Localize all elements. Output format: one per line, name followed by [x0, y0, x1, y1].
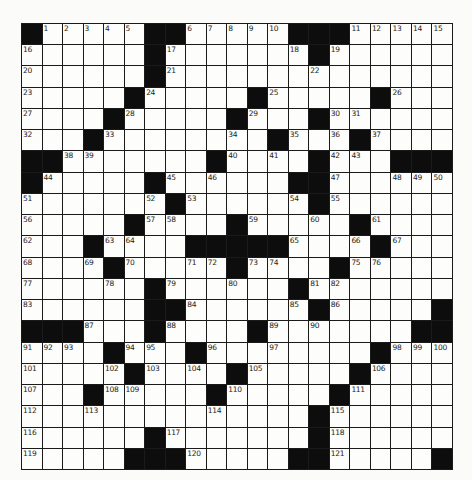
- answer-cell[interactable]: [412, 385, 432, 405]
- answer-cell[interactable]: [309, 88, 329, 108]
- answer-cell[interactable]: [227, 88, 247, 108]
- answer-cell[interactable]: 17: [166, 45, 186, 65]
- answer-cell[interactable]: 63: [104, 236, 124, 256]
- answer-cell[interactable]: 65: [289, 236, 309, 256]
- answer-cell[interactable]: [104, 88, 124, 108]
- answer-cell[interactable]: [43, 258, 63, 278]
- answer-cell[interactable]: 116: [22, 428, 42, 448]
- answer-cell[interactable]: [104, 215, 124, 235]
- answer-cell[interactable]: 93: [63, 343, 83, 363]
- answer-cell[interactable]: [186, 215, 206, 235]
- answer-cell[interactable]: [207, 364, 227, 384]
- answer-cell[interactable]: [330, 343, 350, 363]
- answer-cell[interactable]: 22: [309, 66, 329, 86]
- answer-cell[interactable]: [84, 364, 104, 384]
- answer-cell[interactable]: [63, 130, 83, 150]
- answer-cell[interactable]: [166, 364, 186, 384]
- answer-cell[interactable]: [104, 66, 124, 86]
- answer-cell[interactable]: 67: [391, 236, 411, 256]
- answer-cell[interactable]: [309, 130, 329, 150]
- answer-cell[interactable]: [412, 194, 432, 214]
- answer-cell[interactable]: 6: [186, 24, 206, 44]
- answer-cell[interactable]: [43, 364, 63, 384]
- answer-cell[interactable]: [412, 130, 432, 150]
- answer-cell[interactable]: 23: [22, 88, 42, 108]
- answer-cell[interactable]: [145, 406, 165, 426]
- answer-cell[interactable]: 36: [330, 130, 350, 150]
- answer-cell[interactable]: [432, 428, 452, 448]
- answer-cell[interactable]: [207, 109, 227, 129]
- answer-cell[interactable]: 4: [104, 24, 124, 44]
- answer-cell[interactable]: [145, 258, 165, 278]
- answer-cell[interactable]: [432, 406, 452, 426]
- answer-cell[interactable]: [330, 364, 350, 384]
- answer-cell[interactable]: 104: [186, 364, 206, 384]
- answer-cell[interactable]: [289, 88, 309, 108]
- answer-cell[interactable]: 94: [125, 343, 145, 363]
- answer-cell[interactable]: [391, 215, 411, 235]
- answer-cell[interactable]: [63, 215, 83, 235]
- answer-cell[interactable]: 55: [330, 194, 350, 214]
- answer-cell[interactable]: 32: [22, 130, 42, 150]
- answer-cell[interactable]: [248, 449, 268, 469]
- answer-cell[interactable]: [43, 236, 63, 256]
- answer-cell[interactable]: [350, 66, 370, 86]
- answer-cell[interactable]: 80: [227, 279, 247, 299]
- answer-cell[interactable]: 115: [330, 406, 350, 426]
- answer-cell[interactable]: 42: [330, 151, 350, 171]
- answer-cell[interactable]: [350, 428, 370, 448]
- answer-cell[interactable]: [43, 45, 63, 65]
- answer-cell[interactable]: [84, 449, 104, 469]
- answer-cell[interactable]: [268, 45, 288, 65]
- answer-cell[interactable]: 16: [22, 45, 42, 65]
- answer-cell[interactable]: [289, 151, 309, 171]
- answer-cell[interactable]: [84, 173, 104, 193]
- answer-cell[interactable]: 111: [350, 385, 370, 405]
- answer-cell[interactable]: [227, 428, 247, 448]
- answer-cell[interactable]: [432, 66, 452, 86]
- answer-cell[interactable]: [371, 428, 391, 448]
- answer-cell[interactable]: 118: [330, 428, 350, 448]
- answer-cell[interactable]: 100: [432, 343, 452, 363]
- answer-cell[interactable]: 18: [289, 45, 309, 65]
- answer-cell[interactable]: [432, 364, 452, 384]
- answer-cell[interactable]: [207, 428, 227, 448]
- answer-cell[interactable]: [371, 449, 391, 469]
- answer-cell[interactable]: [186, 66, 206, 86]
- answer-cell[interactable]: [289, 321, 309, 341]
- answer-cell[interactable]: [43, 428, 63, 448]
- answer-cell[interactable]: [350, 173, 370, 193]
- answer-cell[interactable]: [309, 236, 329, 256]
- answer-cell[interactable]: [371, 300, 391, 320]
- answer-cell[interactable]: 8: [227, 24, 247, 44]
- answer-cell[interactable]: [227, 66, 247, 86]
- answer-cell[interactable]: 14: [412, 24, 432, 44]
- answer-cell[interactable]: [125, 130, 145, 150]
- answer-cell[interactable]: 45: [166, 173, 186, 193]
- answer-cell[interactable]: 3: [84, 24, 104, 44]
- answer-cell[interactable]: [268, 385, 288, 405]
- answer-cell[interactable]: 54: [289, 194, 309, 214]
- answer-cell[interactable]: [104, 406, 124, 426]
- answer-cell[interactable]: [186, 130, 206, 150]
- answer-cell[interactable]: [391, 109, 411, 129]
- answer-cell[interactable]: [391, 300, 411, 320]
- answer-cell[interactable]: 113: [84, 406, 104, 426]
- answer-cell[interactable]: [125, 300, 145, 320]
- answer-cell[interactable]: [166, 109, 186, 129]
- answer-cell[interactable]: [145, 385, 165, 405]
- answer-cell[interactable]: 101: [22, 364, 42, 384]
- answer-cell[interactable]: [391, 66, 411, 86]
- answer-cell[interactable]: 5: [125, 24, 145, 44]
- answer-cell[interactable]: 11: [350, 24, 370, 44]
- answer-cell[interactable]: [207, 449, 227, 469]
- answer-cell[interactable]: 103: [145, 364, 165, 384]
- answer-cell[interactable]: [432, 236, 452, 256]
- answer-cell[interactable]: [84, 194, 104, 214]
- answer-cell[interactable]: [227, 321, 247, 341]
- answer-cell[interactable]: 28: [125, 109, 145, 129]
- answer-cell[interactable]: [63, 173, 83, 193]
- answer-cell[interactable]: [125, 151, 145, 171]
- answer-cell[interactable]: [412, 428, 432, 448]
- answer-cell[interactable]: [84, 66, 104, 86]
